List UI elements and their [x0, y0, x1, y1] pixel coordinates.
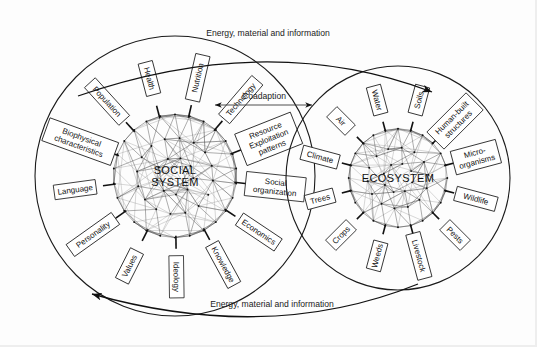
mesh-edge — [363, 143, 369, 168]
mesh-ring-edge — [175, 236, 190, 238]
mesh-ring-edge — [385, 226, 398, 228]
mesh-ring-edge — [423, 213, 433, 221]
component-label[interactable]: Ideology — [169, 256, 184, 298]
network-node — [180, 157, 182, 159]
network-node — [401, 147, 403, 149]
network-node — [232, 197, 234, 199]
component-label[interactable]: Soils — [408, 84, 430, 116]
top-flow-label: Energy, material and information — [206, 28, 330, 38]
network-node — [348, 177, 350, 179]
bottom-flow-label: Energy, material and information — [210, 299, 334, 309]
label-connector — [142, 229, 148, 241]
mesh-edge — [394, 208, 398, 227]
mesh-edge — [168, 158, 181, 159]
mesh-edge — [402, 162, 424, 164]
mesh-edge — [427, 188, 433, 213]
component-label[interactable]: Micro-organisms — [450, 139, 501, 174]
mesh-ring-edge — [190, 231, 204, 236]
network-node — [393, 207, 395, 209]
mesh-ring-edge — [216, 130, 226, 141]
mesh-edge — [405, 191, 420, 200]
mesh-edge — [363, 143, 402, 148]
component-label[interactable]: Population — [84, 78, 129, 126]
network-node — [207, 194, 209, 196]
network-node — [144, 199, 146, 201]
network-node — [137, 185, 139, 187]
component-label[interactable]: Knowledge — [206, 241, 241, 289]
network-node — [123, 140, 125, 142]
label-connector — [225, 209, 236, 216]
mesh-edge — [134, 222, 160, 236]
component-label[interactable]: Climate — [300, 145, 340, 169]
mesh-ring-edge — [349, 165, 351, 178]
label-connector — [126, 122, 135, 132]
mesh-ring-edge — [373, 221, 385, 226]
network-node — [404, 190, 406, 192]
mesh-edge — [372, 192, 394, 194]
mesh-ring-edge — [441, 191, 446, 203]
network-node — [423, 161, 425, 163]
component-label[interactable]: Biophysicalcharacteristics — [42, 118, 119, 166]
label-connector — [444, 190, 454, 193]
network-node — [116, 197, 118, 199]
network-node — [401, 163, 403, 165]
mesh-edge — [117, 154, 137, 171]
mesh-ring-edge — [134, 121, 146, 129]
network-node — [189, 235, 191, 237]
network-node — [446, 177, 448, 179]
mesh-edge — [180, 116, 190, 138]
component-label[interactable]: Livestock — [406, 231, 432, 280]
component-label[interactable]: Crops — [326, 220, 357, 251]
mesh-edge — [145, 200, 170, 214]
mesh-ring-edge — [134, 222, 146, 230]
mesh-edge — [175, 114, 216, 129]
component-label[interactable]: Language — [53, 180, 97, 200]
mesh-edge — [156, 209, 160, 236]
mesh-edge — [134, 171, 137, 222]
network-node — [381, 203, 383, 205]
component-label[interactable]: Health — [138, 60, 161, 96]
mesh-ring-edge — [355, 143, 363, 153]
mesh-edge — [363, 143, 376, 156]
mesh-edge — [160, 116, 179, 138]
mesh-ring-edge — [441, 153, 446, 165]
network-node — [145, 121, 147, 123]
mesh-ring-edge — [363, 213, 373, 221]
network-node — [179, 137, 181, 139]
mesh-edge — [180, 141, 225, 158]
center-label-text: SOCIALSYSTEM — [151, 164, 199, 189]
mesh-ring-edge — [233, 154, 237, 168]
mesh-ring-edge — [233, 183, 237, 197]
mesh-edge — [372, 185, 385, 194]
mesh-edge — [190, 206, 199, 236]
component-label[interactable]: Weeds — [366, 240, 388, 272]
network-node — [397, 226, 399, 228]
component-label[interactable]: Socialorganization — [244, 171, 306, 201]
mesh-ring-edge — [216, 211, 226, 222]
label-connector — [357, 137, 364, 144]
mesh-edge — [117, 141, 124, 198]
mesh-edge — [176, 194, 199, 206]
component-label[interactable]: Wildlife — [454, 186, 499, 211]
network-node — [384, 184, 386, 186]
mesh-edge — [427, 188, 441, 202]
component-label[interactable]: Personality — [66, 212, 120, 256]
component-label[interactable]: Air — [327, 107, 356, 136]
network-node — [169, 213, 171, 215]
mesh-edge — [146, 121, 164, 139]
network-node — [215, 221, 217, 223]
network-node — [155, 208, 157, 210]
component-label[interactable]: Nutrition — [185, 53, 210, 102]
network-node — [422, 134, 424, 136]
network-node — [397, 128, 399, 130]
center-label-text: ECOSYSTEM — [362, 172, 435, 184]
component-label[interactable]: Economics — [235, 213, 282, 251]
component-label[interactable]: Water — [366, 84, 388, 116]
mesh-edge — [350, 191, 363, 213]
component-label[interactable]: Pests — [440, 220, 471, 251]
component-label[interactable]: Trees — [304, 188, 336, 210]
mesh-edge — [194, 121, 204, 142]
network-node — [175, 194, 177, 196]
component-label[interactable]: Values — [115, 248, 143, 284]
component-label[interactable]: Human-builtstructures — [427, 93, 483, 149]
